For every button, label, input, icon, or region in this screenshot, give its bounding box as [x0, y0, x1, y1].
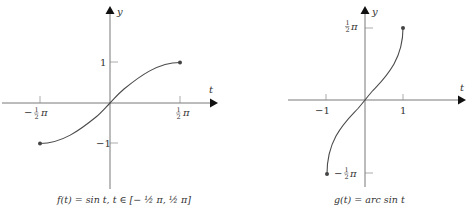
left-t-arrow-icon — [210, 99, 218, 108]
svg-text:−: − — [334, 168, 342, 179]
left-label-neg-half-pi: − 1 2 π — [24, 106, 48, 121]
right-label-one: 1 — [400, 105, 406, 116]
right-label-neg-half-pi: − 1 2 π — [334, 166, 357, 181]
sin-plot: y t − 1 2 π 1 2 π 1 −1 f(t) = sin t, t ∈… — [2, 6, 218, 205]
svg-text:−: − — [24, 107, 32, 118]
right-y-label: y — [371, 6, 378, 17]
svg-text:2: 2 — [345, 173, 349, 181]
right-label-neg-one: −1 — [315, 105, 330, 116]
left-y-arrow-icon — [106, 6, 115, 14]
left-endpoint-end — [178, 61, 182, 65]
svg-text:π: π — [349, 168, 357, 179]
right-endpoint-start — [325, 172, 329, 176]
left-y-label: y — [116, 6, 123, 17]
right-y-arrow-icon — [361, 6, 370, 14]
svg-text:π: π — [350, 21, 358, 32]
left-label-neg-one: −1 — [96, 138, 111, 149]
right-endpoint-end — [401, 26, 405, 30]
svg-text:π: π — [182, 107, 190, 118]
left-endpoint-start — [38, 142, 42, 146]
svg-text:2: 2 — [346, 26, 350, 34]
svg-text:2: 2 — [177, 113, 181, 121]
svg-text:π: π — [40, 107, 48, 118]
right-caption: g(t) = arc sin t — [334, 194, 405, 205]
right-t-arrow-icon — [458, 96, 466, 105]
arcsin-plot: y t −1 1 1 2 π − 1 2 π g(t) = arc sin t — [288, 6, 466, 205]
right-label-half-pi: 1 2 π — [345, 19, 358, 34]
left-t-label: t — [209, 84, 214, 95]
left-label-one: 1 — [100, 57, 106, 68]
left-label-half-pi: 1 2 π — [176, 106, 190, 121]
figure-canvas: y t − 1 2 π 1 2 π 1 −1 f(t) = sin t, t ∈… — [0, 0, 467, 211]
right-t-label: t — [460, 82, 465, 93]
left-caption: f(t) = sin t, t ∈ [− ½ π, ½ π] — [56, 194, 191, 205]
svg-text:2: 2 — [35, 113, 39, 121]
